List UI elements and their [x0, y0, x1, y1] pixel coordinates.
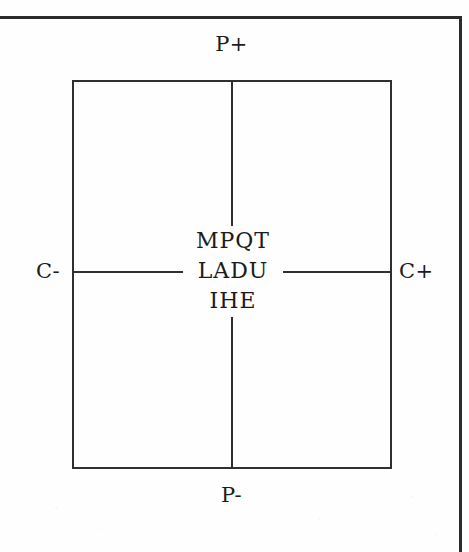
vertical-axis-lower-segment — [231, 317, 233, 469]
terminal-label-p-minus: P- — [0, 485, 463, 506]
center-text-line-3: IHE — [183, 286, 283, 316]
horizontal-axis-right-segment — [267, 271, 392, 273]
terminal-label-p-plus: P+ — [0, 34, 463, 55]
terminal-label-c-minus: C- — [36, 261, 60, 282]
center-text-line-1: MPQT — [183, 226, 283, 256]
page-frame-top-rule — [0, 16, 462, 19]
center-text-line-2: LADU — [183, 256, 283, 286]
vertical-axis-upper-segment — [231, 80, 233, 226]
terminal-label-c-plus: C+ — [399, 261, 434, 282]
page-frame-right-rule — [459, 16, 462, 552]
scanned-page: P+ C- C+ P- MPQT LADU IHE — [0, 0, 469, 552]
horizontal-axis-left-segment — [72, 271, 199, 273]
center-text-block: MPQT LADU IHE — [183, 226, 283, 316]
